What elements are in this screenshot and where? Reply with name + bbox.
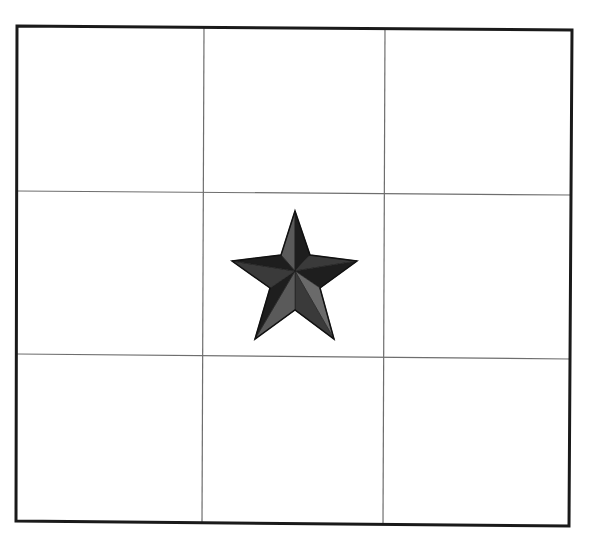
grid-diagram bbox=[0, 0, 592, 544]
grid-svg bbox=[0, 0, 592, 544]
